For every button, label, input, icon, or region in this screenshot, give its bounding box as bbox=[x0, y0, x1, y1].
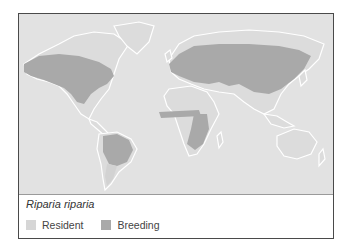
breeding-swatch bbox=[101, 220, 111, 230]
legend-item-resident: Resident bbox=[26, 219, 83, 231]
world-map-svg bbox=[19, 14, 333, 194]
map-legend: Resident Breeding bbox=[26, 219, 177, 231]
legend-label-breeding: Breeding bbox=[117, 219, 159, 231]
range-map-card: Riparia riparia Resident Breeding bbox=[18, 13, 334, 239]
world-map bbox=[19, 14, 333, 195]
species-name: Riparia riparia bbox=[26, 198, 94, 210]
resident-swatch bbox=[26, 220, 36, 230]
legend-label-resident: Resident bbox=[42, 219, 83, 231]
legend-item-breeding: Breeding bbox=[101, 219, 159, 231]
